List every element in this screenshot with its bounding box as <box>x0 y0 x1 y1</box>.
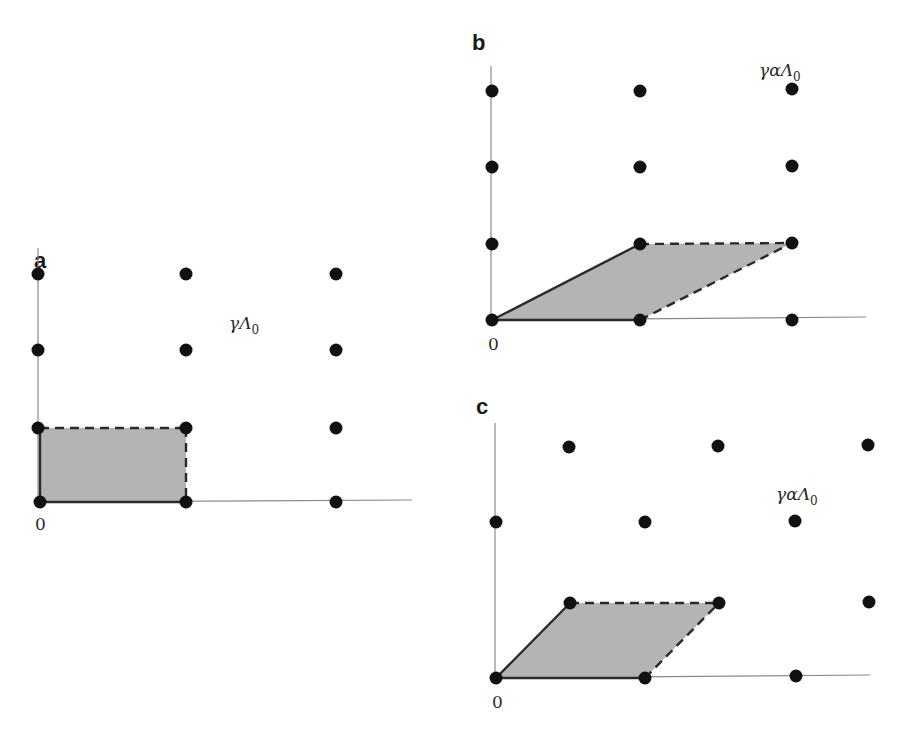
panel-label-c: c <box>476 394 488 419</box>
lattice-label: γΛ0 <box>229 313 259 337</box>
figure-canvas: a 0 γΛ0 <box>0 0 906 735</box>
lattice-point <box>330 422 343 435</box>
panel-c: c 0 γαΛ0 <box>476 394 876 712</box>
lattice-point <box>330 344 343 357</box>
lattice-label: γαΛ0 <box>759 60 801 84</box>
lattice-point <box>490 516 503 529</box>
lattice-point <box>862 439 875 452</box>
lattice-point <box>639 672 652 685</box>
lattice-point <box>634 85 647 98</box>
lattice-point <box>32 422 45 435</box>
panel-b: b 0 γαΛ0 <box>472 30 866 354</box>
lattice-point <box>180 344 193 357</box>
lattice-point <box>486 85 499 98</box>
origin-label: 0 <box>492 692 503 712</box>
lattice-point <box>32 344 45 357</box>
lattice-point <box>32 268 45 281</box>
lattice-point <box>180 496 193 509</box>
lattice-label-subscript: 0 <box>810 494 818 508</box>
fundamental-cell <box>40 428 186 502</box>
lattice-label: γαΛ0 <box>776 484 818 508</box>
lattice-label-subscript: 0 <box>251 323 259 337</box>
lattice-point <box>486 238 499 251</box>
lattice-point-origin <box>486 314 499 327</box>
origin-label: 0 <box>35 514 46 534</box>
lattice-point <box>789 515 802 528</box>
lattice-point <box>180 268 193 281</box>
panel-a: a 0 γΛ0 <box>32 248 413 534</box>
lattice-point-origin <box>34 496 47 509</box>
lattice-label-base: γαΛ <box>776 484 810 504</box>
lattice-point <box>786 237 799 250</box>
lattice-point <box>786 160 799 173</box>
lattice-label-subscript: 0 <box>793 70 801 84</box>
lattice-point <box>634 314 647 327</box>
lattice-point-origin <box>490 672 503 685</box>
lattice-point <box>786 83 799 96</box>
lattice-label-base: γΛ <box>229 313 251 333</box>
fundamental-cell <box>492 243 792 320</box>
lattice-point <box>330 496 343 509</box>
lattice-point <box>180 422 193 435</box>
lattice-point <box>634 161 647 174</box>
lattice-point <box>790 670 803 683</box>
fundamental-cell <box>496 603 719 678</box>
lattice-point <box>634 238 647 251</box>
lattice-label-base: γαΛ <box>759 60 793 80</box>
origin-label: 0 <box>488 334 499 354</box>
lattice-point <box>330 268 343 281</box>
lattice-point <box>863 596 876 609</box>
lattice-point <box>563 441 576 454</box>
lattice-point <box>564 597 577 610</box>
lattice-point <box>713 597 726 610</box>
lattice-point <box>712 440 725 453</box>
panel-label-b: b <box>472 30 485 55</box>
lattice-point <box>639 516 652 529</box>
lattice-point <box>786 314 799 327</box>
lattice-figure: a 0 γΛ0 <box>0 0 906 735</box>
lattice-point <box>486 161 499 174</box>
